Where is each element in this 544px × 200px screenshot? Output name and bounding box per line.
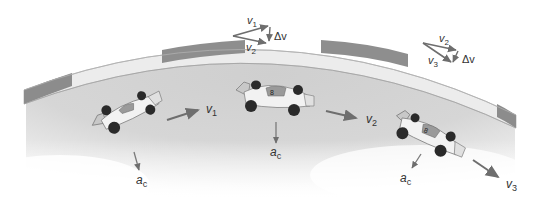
tri1-delta-label: Δv bbox=[274, 30, 287, 42]
front-wing bbox=[304, 94, 314, 106]
wheel bbox=[251, 81, 261, 90]
wheel bbox=[293, 85, 303, 95]
tri2-delta-label: Δv bbox=[462, 53, 475, 65]
tri2-top-label: v2 bbox=[439, 32, 450, 47]
centripetal-diagram: v1 v2 Δv v2 v3 Δv v1 ac 8 v2 bbox=[0, 0, 544, 200]
car-number: 8 bbox=[270, 89, 274, 96]
wheel bbox=[245, 100, 257, 112]
wheel bbox=[288, 104, 300, 116]
tri2-bottom-label: v3 bbox=[428, 54, 439, 69]
vector-triangle-2: v2 v3 Δv bbox=[423, 32, 475, 69]
cockpit bbox=[266, 86, 286, 96]
tri1-top-label: v1 bbox=[247, 14, 258, 29]
